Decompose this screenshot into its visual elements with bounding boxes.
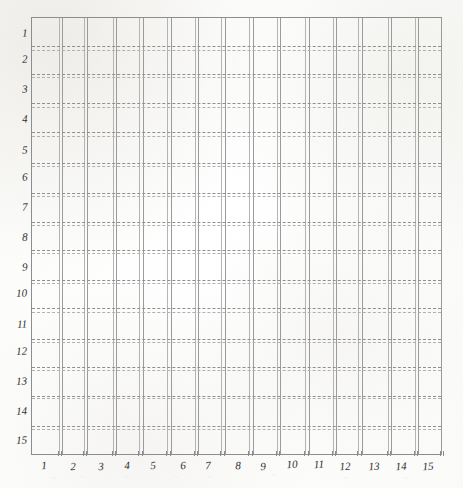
y-axis-tick-label: 15 [16, 435, 27, 446]
horizontal-gridline [32, 339, 441, 340]
y-axis-tick-label: 3 [21, 83, 27, 94]
x-axis-tick [276, 451, 277, 456]
bleed-through-mark: ~ [124, 473, 129, 482]
x-axis-tick [357, 451, 358, 456]
y-axis-tick-label: 11 [17, 319, 28, 330]
x-axis-tick-label: 9 [260, 461, 266, 472]
x-axis-tick [224, 451, 225, 456]
bleed-through-mark: ~ [272, 471, 277, 480]
y-axis-tick-label: 8 [21, 231, 27, 242]
horizontal-gridline [32, 103, 441, 104]
x-axis-tick-label: 5 [150, 460, 156, 471]
horizontal-gridline [32, 280, 441, 281]
plot-frame [31, 17, 442, 455]
y-axis-tick-label: 12 [16, 346, 27, 357]
x-axis-tick [279, 451, 280, 456]
x-axis-tick-label: 4 [124, 460, 130, 471]
horizontal-gridline [32, 74, 441, 75]
horizontal-gridline [32, 429, 441, 430]
x-axis-tick [83, 451, 84, 456]
x-axis-tick-label: 15 [423, 461, 435, 473]
y-axis-tick-label: 14 [16, 406, 27, 417]
y-axis-tick-label: 4 [21, 114, 27, 125]
horizontal-gridline [32, 163, 441, 164]
horizontal-gridlines [32, 18, 441, 454]
x-axis-tick-label: 8 [235, 460, 241, 471]
x-axis-tick [138, 451, 139, 456]
x-axis-tick [390, 451, 391, 456]
bleed-through-mark: ~ [174, 473, 179, 482]
x-axis-tick [304, 451, 305, 456]
bleed-through-mark: ~ [404, 474, 409, 483]
horizontal-gridline [32, 253, 441, 254]
x-axis-tick-label: 13 [369, 461, 381, 473]
y-axis-tick-label: 7 [21, 202, 27, 213]
horizontal-gridline [32, 342, 441, 343]
horizontal-gridline [32, 107, 441, 108]
y-axis-tick-label: 9 [21, 261, 27, 272]
x-axis-tick [112, 451, 113, 456]
x-axis-tick-label: 11 [313, 459, 324, 471]
horizontal-gridline [32, 46, 441, 47]
horizontal-gridline [32, 136, 441, 137]
x-axis-tick [194, 451, 195, 456]
x-axis-tick-label: 10 [286, 459, 298, 471]
x-axis-tick [443, 451, 444, 456]
x-axis-tick [197, 451, 198, 456]
x-axis-tick-label: 14 [395, 460, 407, 472]
x-axis-tick [252, 451, 253, 456]
y-axis-tick-label: 10 [16, 288, 27, 299]
horizontal-gridline [32, 166, 441, 167]
bleed-through-mark: ~ [52, 474, 57, 483]
x-axis-tick [387, 451, 388, 456]
horizontal-gridline [32, 193, 441, 194]
horizontal-gridline [32, 308, 441, 309]
y-axis-tick-label: 1 [21, 27, 27, 38]
horizontal-gridline [32, 250, 441, 251]
x-axis-tick [220, 451, 221, 456]
x-axis-tick [86, 451, 87, 456]
x-axis-tick [361, 451, 362, 456]
y-axis-tick-label: 5 [21, 144, 27, 155]
x-axis-tick [170, 451, 171, 456]
x-axis-tick [335, 451, 336, 456]
x-axis-tick [115, 451, 116, 456]
horizontal-gridline [32, 283, 441, 284]
chart-page: 123456789101112131415 123456789101112131… [0, 0, 463, 488]
x-axis-tick [417, 451, 418, 456]
horizontal-gridline [32, 367, 441, 368]
horizontal-gridline [32, 196, 441, 197]
horizontal-gridline [32, 370, 441, 371]
horizontal-gridline [32, 50, 441, 51]
x-axis-tick [58, 451, 59, 456]
x-axis-tick-label: 3 [97, 461, 103, 472]
x-axis-tick [332, 451, 333, 456]
x-axis-tick [142, 451, 143, 456]
bleed-through-mark: ~ [208, 473, 213, 482]
bleed-through-mark: ~ [344, 474, 349, 483]
horizontal-gridline [32, 222, 441, 223]
x-axis-tick-label: 6 [180, 460, 186, 471]
horizontal-gridline [32, 426, 441, 427]
x-axis-tick-label: 12 [340, 461, 352, 473]
x-axis-tick [166, 451, 167, 456]
x-axis-tick-label: 2 [70, 460, 76, 471]
horizontal-gridline [32, 312, 441, 313]
horizontal-gridline [32, 225, 441, 226]
x-axis-tick [440, 451, 441, 456]
horizontal-gridline [32, 396, 441, 397]
y-axis-tick-label: 6 [21, 172, 27, 183]
x-axis-tick [248, 451, 249, 456]
y-axis-tick-label: 13 [16, 375, 27, 386]
x-axis-tick-label: 7 [205, 460, 211, 471]
y-axis-tick-label: 2 [21, 54, 27, 65]
horizontal-gridline [32, 77, 441, 78]
x-axis-tick [308, 451, 309, 456]
x-axis-tick [414, 451, 415, 456]
horizontal-gridline [32, 398, 441, 399]
bleed-through-mark: ~ [80, 473, 85, 482]
x-axis-tick-label: 1 [41, 459, 47, 470]
x-axis-tick [61, 451, 62, 456]
horizontal-gridline [32, 132, 441, 133]
bleed-through-marks: ~~~~~~~~ [0, 470, 463, 488]
